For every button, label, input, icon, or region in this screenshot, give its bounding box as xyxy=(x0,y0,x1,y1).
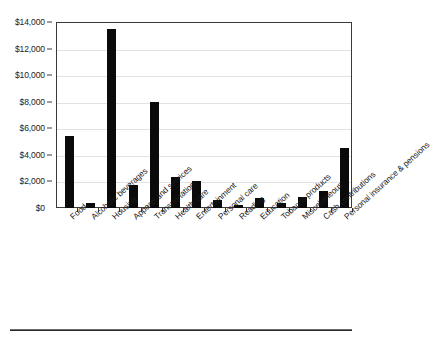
y-axis: $0$2,000$4,000$6,000$8,000$10,000$12,000… xyxy=(0,22,52,208)
y-tick-mark xyxy=(47,75,52,76)
gridline xyxy=(57,103,351,104)
y-tick-label: $4,000 xyxy=(20,150,45,160)
x-tick-label-text: Personal insurance & pensions xyxy=(342,140,431,222)
y-tick-label: $2,000 xyxy=(20,176,45,186)
y-tick-mark xyxy=(47,48,52,49)
gridline xyxy=(57,156,351,157)
gridline xyxy=(57,50,351,51)
plot-area xyxy=(56,22,352,208)
y-tick-mark xyxy=(47,181,52,182)
x-tick-label: Personal insurance & pensions xyxy=(342,140,431,222)
y-tick-mark xyxy=(47,22,52,23)
y-tick-mark xyxy=(47,128,52,129)
y-tick-mark xyxy=(47,154,52,155)
y-tick-label: $6,000 xyxy=(20,123,45,133)
gridline xyxy=(57,182,351,183)
y-tick-label: $8,000 xyxy=(20,97,45,107)
x-axis-labels: FoodAlcoholic beveragesHousingApparel an… xyxy=(0,208,363,328)
gridline xyxy=(57,129,351,130)
y-tick-mark xyxy=(47,101,52,102)
y-tick-label: $14,000 xyxy=(15,17,45,27)
bottom-divider xyxy=(10,329,352,331)
gridline xyxy=(57,76,351,77)
y-tick-label: $10,000 xyxy=(15,70,45,80)
y-tick-label: $12,000 xyxy=(15,44,45,54)
